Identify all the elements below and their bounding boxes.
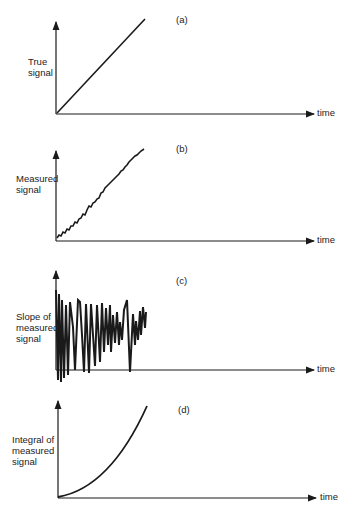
slope-signal-line [56, 290, 146, 382]
panel-d-xlabel: time [320, 491, 338, 502]
integral-signal-curve [58, 406, 147, 497]
panel-b [56, 149, 314, 241]
ylabel-line: signal [12, 456, 54, 467]
panel-d-ylabel: Integral of measured signal [12, 434, 54, 467]
panel-a [56, 19, 314, 114]
ylabel-line: signal [28, 67, 53, 78]
panel-c-xlabel: time [317, 363, 335, 374]
ylabel-line: True [28, 56, 53, 67]
ylabel-line: signal [16, 333, 58, 344]
panel-c-ylabel: Slope of measured signal [16, 311, 58, 344]
panel-a-ylabel: True signal [28, 56, 53, 78]
panel-a-tag: (a) [176, 14, 188, 25]
ylabel-line: Measured [16, 173, 58, 184]
panel-b-ylabel: Measured signal [16, 173, 58, 195]
panel-b-tag: (b) [176, 143, 188, 154]
panel-c-tag: (c) [176, 275, 187, 286]
measured-signal-line [57, 149, 144, 238]
panel-a-xlabel: time [317, 107, 335, 118]
panel-d [58, 401, 316, 498]
ylabel-line: Slope of [16, 311, 58, 322]
true-signal-line [57, 19, 145, 113]
panel-b-xlabel: time [317, 234, 335, 245]
ylabel-line: measured [12, 445, 54, 456]
ylabel-line: measured [16, 322, 58, 333]
ylabel-line: Integral of [12, 434, 54, 445]
panel-d-tag: (d) [178, 404, 190, 415]
ylabel-line: signal [16, 184, 58, 195]
panel-c [56, 271, 314, 382]
